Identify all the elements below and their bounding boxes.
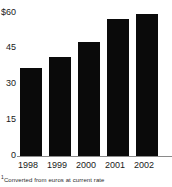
y-tick-label-45: 45 (6, 43, 16, 52)
x-axis: 1998 1999 2000 2001 2002 (20, 160, 172, 172)
bar-2002 (136, 14, 158, 156)
bar-1998 (20, 68, 42, 156)
x-tick-label-1999: 1999 (42, 160, 72, 171)
bar-slot-2000 (78, 13, 100, 156)
x-tick-label-2002: 2002 (129, 160, 159, 171)
bar-slot-2001 (107, 13, 129, 156)
bar-2000 (78, 42, 100, 156)
bar-slot-2002 (136, 13, 158, 156)
bar-slot-1999 (49, 13, 71, 156)
footnote-text: Converted from euros at current rate (4, 177, 105, 183)
y-tick-label-15: 15 (6, 115, 16, 124)
y-tick-label-60: $60 (1, 8, 16, 17)
bar-1999 (49, 57, 71, 156)
y-tick-label-30: 30 (6, 79, 16, 88)
x-axis-line (17, 156, 172, 157)
bars-container (20, 13, 172, 156)
bar-slot-1998 (20, 13, 42, 156)
y-axis: $60 45 30 15 0 (0, 0, 18, 160)
x-tick-label-2001: 2001 (100, 160, 130, 171)
chart-footnote: 1Converted from euros at current rate (1, 176, 171, 184)
bar-2001 (107, 19, 129, 156)
y-tick-label-0: 0 (11, 151, 16, 160)
bar-chart-figure: $60 45 30 15 0 1998 1999 2000 2001 2002 … (0, 0, 172, 187)
x-tick-label-1998: 1998 (13, 160, 43, 171)
x-tick-label-2000: 2000 (71, 160, 101, 171)
